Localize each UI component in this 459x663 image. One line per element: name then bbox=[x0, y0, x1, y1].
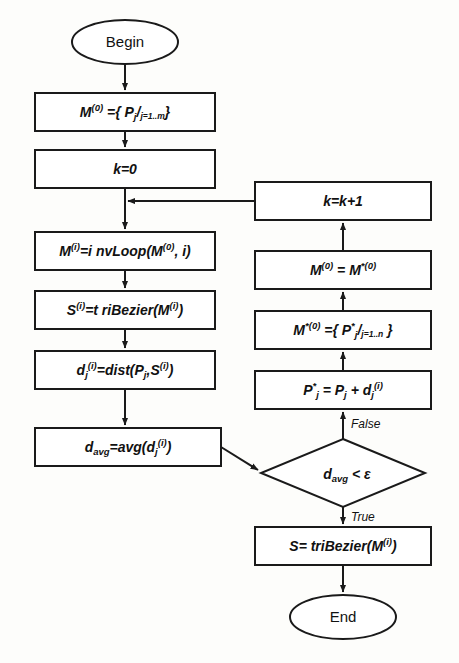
inv-loop-sup2: (0) bbox=[163, 241, 175, 252]
dist-calc-rest: =dist(P bbox=[97, 362, 145, 378]
tri-bezier-s-label: S(i)=t riBezier(M(i)) bbox=[67, 300, 184, 318]
m-star-set-sup: *(0) bbox=[305, 320, 320, 331]
inv-loop-tail: , i) bbox=[173, 243, 191, 259]
decision-sub: avg bbox=[332, 473, 349, 484]
m-star-set-close: } bbox=[383, 322, 393, 338]
node-end[interactable]: End bbox=[290, 595, 396, 639]
node-init-m0[interactable]: M(0) ={ Pj/j=1..m} bbox=[35, 93, 215, 131]
final-bezier-rest: = triBezier(M bbox=[299, 538, 384, 554]
m-star-set-range: j=1..n bbox=[360, 329, 383, 339]
node-k-increment[interactable]: k=k+1 bbox=[255, 182, 431, 220]
m-assign-sup: (0) bbox=[322, 260, 334, 271]
flowchart-canvas: Begin M(0) ={ Pj/j=1..m} k=0 k=k+1 M(i)=… bbox=[0, 0, 459, 663]
tri-bezier-s-sup: (i) bbox=[76, 300, 85, 311]
flowchart-svg: Begin M(0) ={ Pj/j=1..m} k=0 k=k+1 M(i)=… bbox=[0, 0, 459, 663]
decision-epsilon: ε bbox=[364, 466, 371, 482]
p-star-sup2: (i) bbox=[374, 380, 383, 391]
node-dist-calc[interactable]: dj(i)=dist(Pj,S(i)) bbox=[35, 351, 215, 389]
tri-bezier-s-tail: ) bbox=[177, 302, 184, 318]
node-final-bezier[interactable]: S= triBezier(M(i)) bbox=[255, 527, 431, 565]
dist-calc-sup: (i) bbox=[88, 360, 97, 371]
k-increment-label: k=k+1 bbox=[323, 193, 363, 209]
inv-loop-rest: =i nvLoop(M bbox=[80, 243, 163, 259]
dist-calc-mid: ,S bbox=[146, 362, 161, 378]
inv-loop-base: M bbox=[59, 243, 71, 259]
m-assign-sup2: *(0) bbox=[361, 260, 376, 271]
decision-rest: < bbox=[348, 466, 364, 482]
init-m0-base: M bbox=[80, 104, 92, 120]
node-begin[interactable]: Begin bbox=[72, 20, 178, 64]
decision-label: davg < ε bbox=[323, 466, 371, 484]
node-p-star[interactable]: P*j = Pj + dj(i) bbox=[255, 371, 431, 409]
final-bezier-tail: ) bbox=[390, 538, 397, 554]
tri-bezier-s-rest: =t riBezier(M bbox=[85, 302, 170, 318]
d-avg-tail: ) bbox=[165, 439, 172, 455]
node-decision[interactable]: davg < ε bbox=[261, 439, 425, 507]
node-k-zero[interactable]: k=0 bbox=[35, 150, 215, 188]
inv-loop-sup: (i) bbox=[71, 241, 80, 252]
init-m0-rest: ={ bbox=[103, 104, 124, 120]
final-bezier-sup2: (i) bbox=[383, 536, 392, 547]
dist-calc-sup2: (i) bbox=[160, 360, 169, 371]
d-avg-sup2: (i) bbox=[158, 437, 167, 448]
d-avg-sub: avg bbox=[93, 446, 110, 457]
k-zero-label: k=0 bbox=[113, 161, 137, 177]
node-m-assign[interactable]: M(0) = M*(0) bbox=[255, 251, 431, 289]
d-avg-rest: =avg(d bbox=[110, 439, 156, 455]
p-star-mid: + d bbox=[347, 382, 372, 398]
node-d-avg[interactable]: davg=avg(dj(i)) bbox=[35, 428, 221, 466]
m-assign-rest: = M bbox=[333, 262, 361, 278]
edge-label-true: True bbox=[351, 510, 375, 524]
begin-label: Begin bbox=[106, 33, 144, 50]
m-star-set-rest: ={ bbox=[320, 322, 341, 338]
p-star-rest: = P bbox=[319, 382, 345, 398]
init-m0-range: j=1..m bbox=[139, 111, 165, 121]
edge-label-false: False bbox=[351, 417, 381, 431]
tri-bezier-s-sup2: (i) bbox=[170, 300, 179, 311]
edge-davg-to-decision bbox=[221, 447, 258, 470]
init-m0-sup: (0) bbox=[91, 102, 103, 113]
m-star-set-base: M bbox=[293, 322, 305, 338]
final-bezier-label: S= triBezier(M(i)) bbox=[289, 536, 397, 554]
node-inv-loop[interactable]: M(i)=i nvLoop(M(0), i) bbox=[35, 232, 215, 270]
node-tri-bezier-s[interactable]: S(i)=t riBezier(M(i)) bbox=[35, 291, 215, 329]
dist-calc-tail: ) bbox=[167, 362, 174, 378]
end-label: End bbox=[330, 608, 357, 625]
node-m-star-set[interactable]: M*(0) ={ P*j/j=1..n } bbox=[255, 311, 431, 349]
m-assign-base: M bbox=[310, 262, 322, 278]
init-m0-close: } bbox=[163, 104, 171, 120]
